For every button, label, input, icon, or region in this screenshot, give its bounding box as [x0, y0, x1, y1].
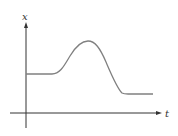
plot: x t: [0, 0, 178, 136]
x-axis-arrow-icon: [156, 111, 162, 115]
y-axis-label: x: [22, 11, 28, 22]
y-axis-arrow-icon: [24, 22, 28, 28]
x-axis-label: t: [165, 108, 170, 119]
curve: [26, 41, 153, 94]
